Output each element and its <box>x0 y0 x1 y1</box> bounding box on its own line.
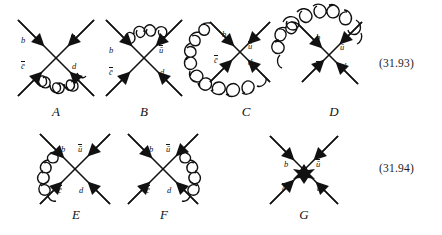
arrow-cbar <box>270 184 290 204</box>
arrow-ubar <box>318 136 338 156</box>
label-d-f: d <box>167 186 171 195</box>
arrow-d <box>320 186 338 204</box>
diagram-d-graphic <box>276 2 368 94</box>
equation-number-3194: (31.94) <box>379 162 414 174</box>
diagram-e-caption: E <box>30 207 122 223</box>
diagram-g-caption: G <box>258 207 350 223</box>
arrow-ubar <box>160 20 182 42</box>
label-cbar-g: c̄ <box>282 184 286 193</box>
cut-off-text-line-above <box>0 0 442 7</box>
label-d-c: d <box>248 58 252 67</box>
label-ubar-f: ū <box>166 145 170 154</box>
diagram-b-caption: B <box>98 104 190 120</box>
arrow-d <box>162 76 182 96</box>
label-cbar-e: c̄ <box>58 186 62 195</box>
label-ubar-e: ū <box>78 145 82 154</box>
label-b-d: b <box>316 33 320 42</box>
label-ubar-c: ū <box>248 42 252 51</box>
arrow-b <box>298 24 318 44</box>
diagram-c: b ū c̄ d <box>186 8 278 100</box>
effective-vertex-blob <box>293 164 315 184</box>
diagram-d: b ū c̄ d <box>276 2 368 94</box>
arrow-cbar <box>18 76 38 96</box>
diagram-a: b ū c̄ d <box>10 12 102 104</box>
label-ubar-g: ū <box>316 160 320 169</box>
diagram-b: b ū c̄ d <box>98 12 190 104</box>
label-cbar-b: c̄ <box>109 68 113 77</box>
label-b-b: b <box>109 46 113 55</box>
arrow-cbar <box>106 76 126 96</box>
gluon-bottom-arc <box>36 73 86 93</box>
arrow-cbar <box>210 64 228 82</box>
arrow-b <box>270 136 290 156</box>
label-d-b: d <box>160 68 164 77</box>
diagram-b-graphic <box>98 12 190 104</box>
label-cbar-d: c̄ <box>316 62 320 71</box>
arrow-b <box>210 22 230 42</box>
label-b-g: b <box>284 160 288 169</box>
feynman-diagram-figure: b ū c̄ d A b ū c̄ d B <box>0 0 442 235</box>
label-ubar-b: ū <box>159 46 163 55</box>
arrow-ubar <box>72 20 94 42</box>
label-b-e: b <box>61 145 65 154</box>
gluon-left-arc <box>38 152 59 201</box>
arrow-cbar <box>128 186 146 204</box>
diagram-d-caption: D <box>288 104 380 120</box>
diagram-a-graphic <box>10 12 102 104</box>
label-ubar-a: ū <box>71 36 75 45</box>
gluon-right-arc <box>180 152 201 201</box>
label-d-d: d <box>342 62 346 71</box>
label-d-e: d <box>79 186 83 195</box>
diagram-f-caption: F <box>118 207 210 223</box>
arrow-b <box>40 134 60 154</box>
arrow-d <box>252 64 270 82</box>
diagram-c-graphic <box>186 8 278 100</box>
diagram-a-caption: A <box>10 104 102 120</box>
arrow-ubar <box>180 134 198 152</box>
arrow-d <box>74 76 94 96</box>
label-b-f: b <box>149 145 153 154</box>
equation-number-3193: (31.93) <box>379 57 414 69</box>
label-b-a: b <box>21 36 25 45</box>
arrow-ubar <box>92 134 110 152</box>
label-b-c: b <box>222 30 226 39</box>
arrow-ubar <box>252 22 270 40</box>
label-d-a: d <box>72 62 76 71</box>
arrow-d <box>92 186 110 204</box>
label-cbar-c: c̄ <box>214 56 218 65</box>
label-ubar-d: ū <box>340 43 344 52</box>
diagram-c-caption: C <box>200 104 292 120</box>
arrow-b <box>128 134 148 154</box>
label-cbar-f: c̄ <box>146 186 150 195</box>
label-cbar-a: c̄ <box>21 62 25 71</box>
label-d-g: d <box>317 184 321 193</box>
